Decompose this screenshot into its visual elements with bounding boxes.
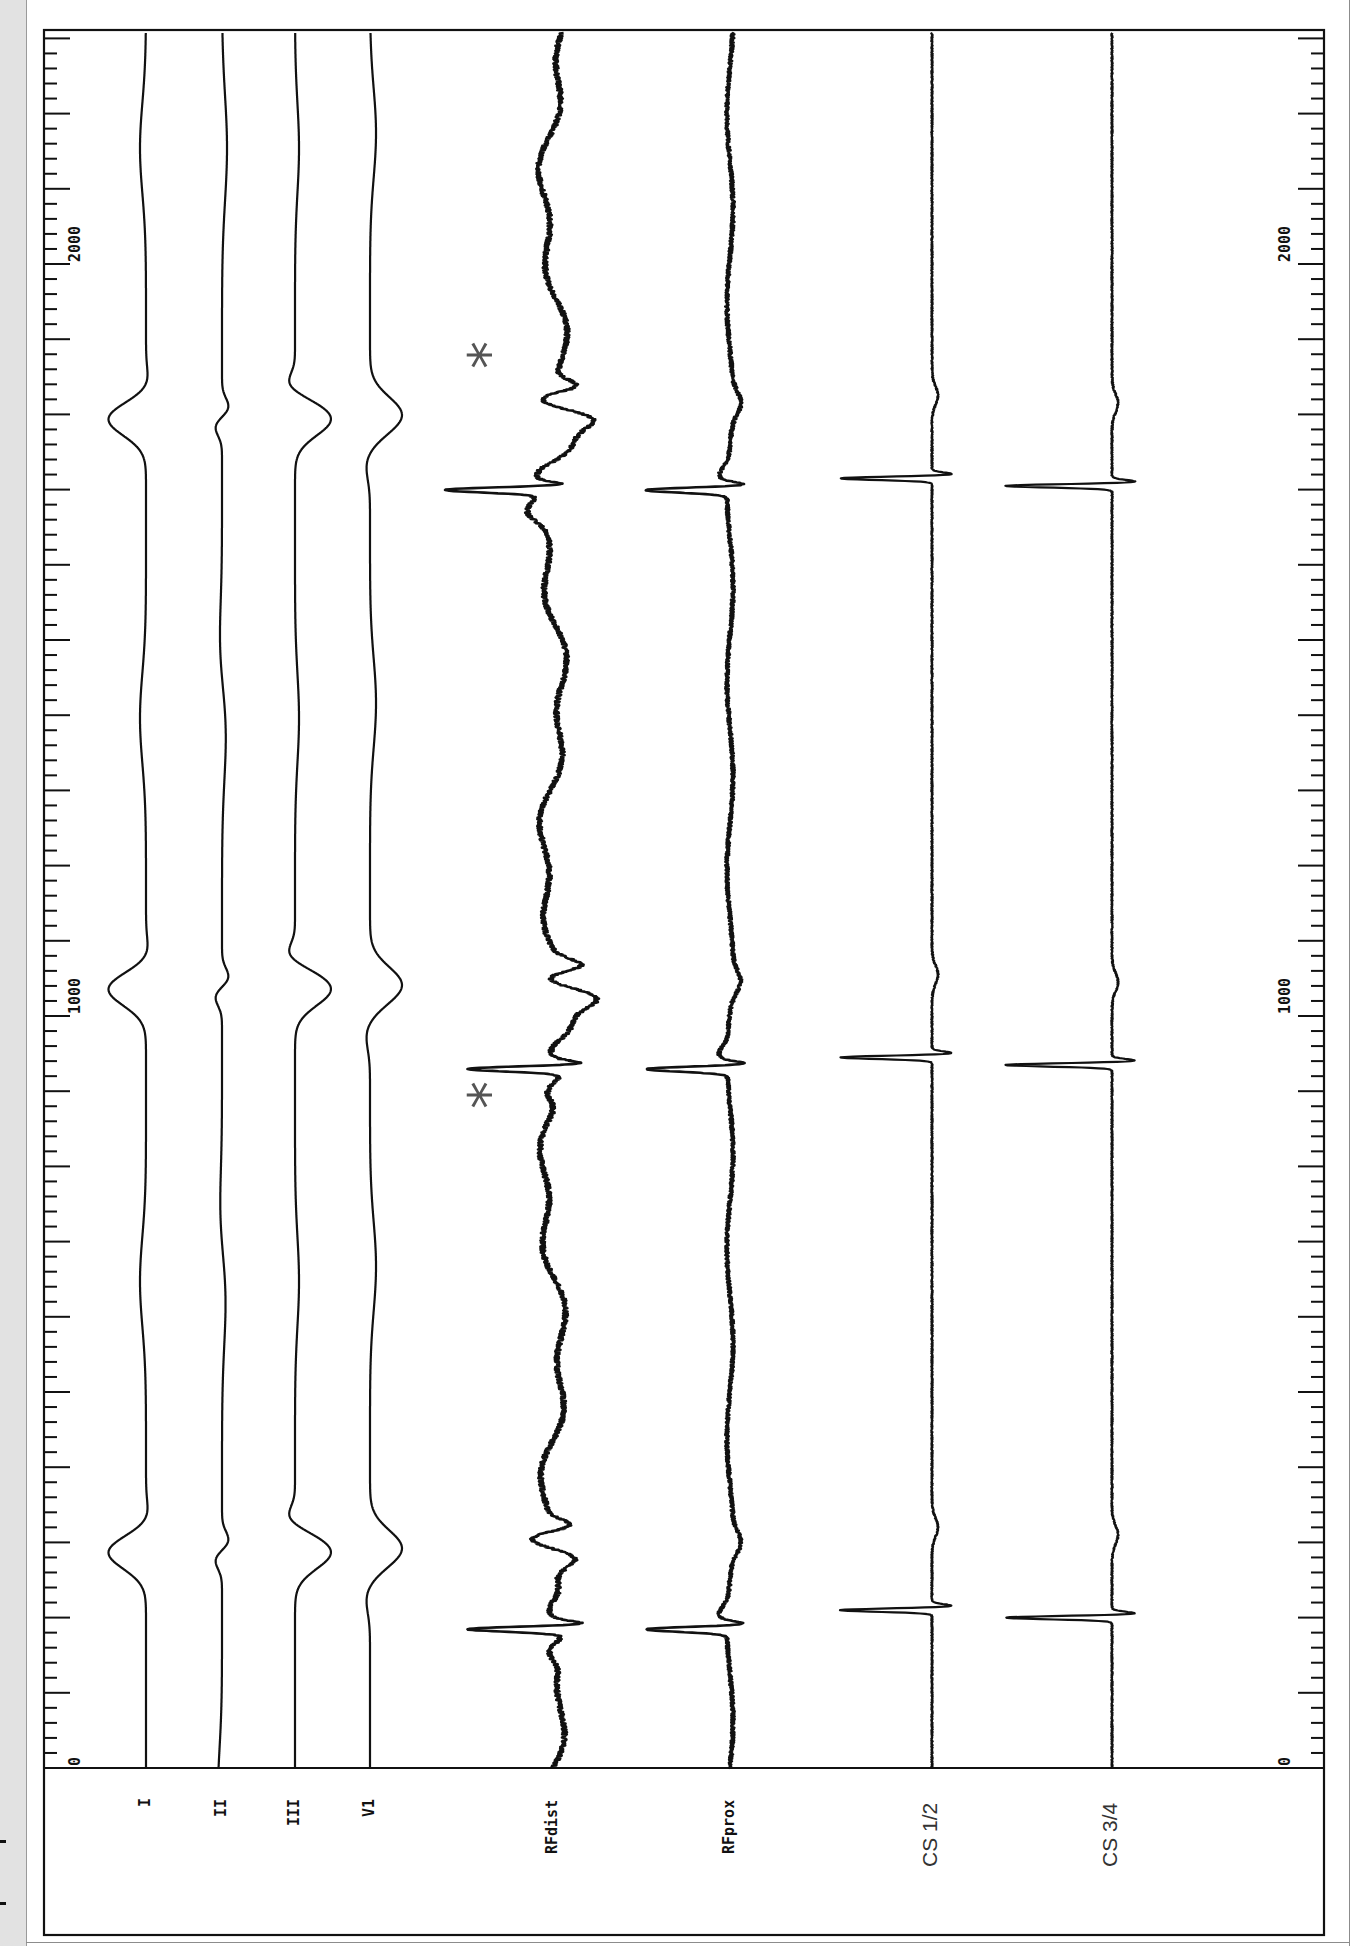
channel-label-i: I: [136, 1798, 154, 1807]
trace-v1: [367, 33, 402, 1768]
channel-label-ii: II: [212, 1799, 230, 1817]
right-time-tick-label: 0: [1276, 1757, 1294, 1766]
trace-cs12: [840, 33, 952, 1768]
trace-iii: [289, 33, 331, 1768]
trace-cs34: [1005, 33, 1135, 1768]
asterisk-marker: *: [461, 1081, 517, 1109]
left-time-tick-label: 0: [66, 1757, 84, 1766]
asterisk-marker: *: [461, 341, 517, 369]
channel-label-v1: V1: [360, 1799, 378, 1817]
right-time-tick-label: 2000: [1276, 226, 1294, 262]
right-time-tick-label: 1000: [1276, 978, 1294, 1014]
channel-label-cs12: CS 1/2: [918, 1803, 942, 1867]
trace-rfdist: [445, 33, 599, 1768]
trace-ii: [216, 33, 229, 1768]
left-time-tick-label: 2000: [66, 226, 84, 262]
channel-label-iii: III: [285, 1799, 303, 1826]
trace-rfprox: [646, 33, 745, 1768]
channel-label-rfdist: RFdist: [543, 1800, 561, 1854]
channel-label-cs34: CS 3/4: [1098, 1803, 1122, 1867]
left-time-tick-label: 1000: [66, 978, 84, 1014]
trace-i: [109, 33, 148, 1768]
chart-frame: [44, 30, 1324, 1935]
channel-label-rfprox: RFprox: [720, 1800, 738, 1854]
